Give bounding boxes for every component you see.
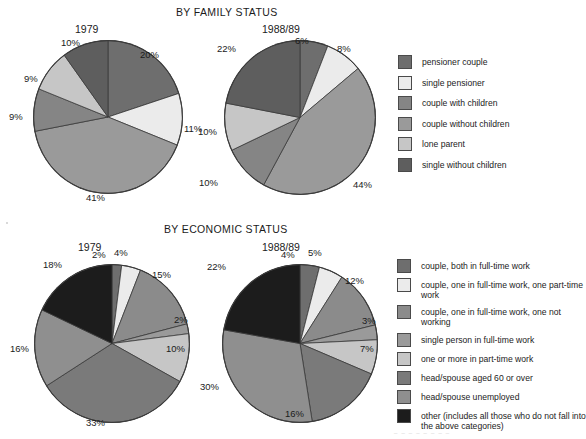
legend-label: lone parent [412, 137, 465, 149]
legend-label: head/spouse aged 60 or over [411, 371, 533, 383]
pct-economic-1988-5: 16% [285, 409, 304, 419]
legend-economic-status: couple, both in full-time workcouple, on… [397, 259, 586, 437]
legend-swatch-icon [398, 158, 412, 172]
pct-family-1988-1: 8% [337, 44, 351, 54]
pct-economic-1979-5: 33% [86, 418, 105, 428]
legend-swatch-icon [397, 352, 411, 366]
legend-swatch-icon [398, 96, 412, 110]
legend-label: single pensioner [412, 76, 485, 88]
legend-item[interactable]: one or more in part-time work [397, 352, 586, 366]
pct-economic-1988-6: 30% [200, 382, 219, 392]
pct-economic-1979-7: 18% [43, 260, 62, 270]
legend-swatch-icon [397, 371, 411, 385]
section-economic-status: BY ECONOMIC STATUS 1979 1988/89 2% 4% 15… [0, 216, 586, 439]
legend-family-status: pensioner couplesingle pensionercouple w… [398, 55, 509, 178]
legend-item[interactable]: single person in full-time work [397, 333, 586, 347]
legend-swatch-icon [398, 117, 412, 131]
page-speck [6, 222, 8, 224]
legend-item[interactable]: single pensioner [398, 76, 509, 90]
legend-swatch-icon [398, 76, 412, 90]
legend-label: single person in full-time work [411, 333, 534, 345]
legend-label: couple, both in full-time work [411, 259, 530, 271]
pct-family-1979-4: 9% [24, 74, 38, 84]
legend-swatch-icon [397, 409, 411, 423]
legend-label: couple without children [412, 117, 509, 129]
pct-economic-1979-2: 15% [152, 270, 171, 280]
pct-economic-1979-3: 2% [174, 315, 188, 325]
legend-label: one or more in part-time work [411, 352, 533, 364]
legend-item[interactable]: head/spouse aged 60 or over [397, 371, 586, 385]
legend-swatch-icon [397, 333, 411, 347]
legend-item[interactable]: couple without children [398, 117, 509, 131]
legend-item[interactable]: lone parent [398, 137, 509, 151]
legend-swatch-icon [397, 278, 411, 292]
legend-label: couple, one in full-time work, one part-… [411, 278, 586, 300]
year-label-family-1988: 1988/89 [262, 23, 300, 35]
pct-family-1979-5: 10% [61, 38, 80, 48]
pct-economic-1988-1: 5% [308, 248, 322, 258]
legend-label: couple, one in full-time work, one not w… [411, 305, 586, 327]
legend-swatch-icon [397, 390, 411, 404]
section-title-economic-status: BY ECONOMIC STATUS [164, 223, 288, 235]
pct-family-1988-2: 44% [353, 180, 372, 190]
legend-item[interactable]: couple with children [398, 96, 509, 110]
legend-item[interactable]: single without children [398, 158, 509, 172]
legend-swatch-icon [398, 137, 412, 151]
pct-economic-1988-3: 3% [362, 316, 376, 326]
pct-family-1979-0: 20% [140, 50, 159, 60]
section-title-family-status: BY FAMILY STATUS [176, 6, 278, 18]
legend-label: head/spouse unemployed [411, 390, 519, 402]
legend-item[interactable]: couple, both in full-time work [397, 259, 586, 273]
legend-swatch-icon [398, 55, 412, 69]
pct-family-1979-3: 9% [9, 112, 23, 122]
pct-economic-1979-1: 4% [114, 248, 128, 258]
legend-swatch-icon [397, 305, 411, 319]
legend-item[interactable]: couple, one in full-time work, one part-… [397, 278, 586, 300]
pie-slice[interactable] [224, 265, 300, 344]
pct-economic-1988-2: 12% [345, 276, 364, 286]
pie-chart-economic-1988[interactable] [222, 264, 378, 423]
pct-economic-1988-4: 7% [360, 344, 374, 354]
pct-economic-1979-0: 2% [92, 250, 106, 260]
pie-chart-family-1979[interactable] [33, 40, 183, 194]
section-family-status: BY FAMILY STATUS 1979 1988/89 20% 11% 41… [0, 0, 586, 216]
legend-label: pensioner couple [412, 55, 487, 67]
footer-note: _ _ _ _ _ _ _ _ [394, 428, 450, 434]
year-label-family-1979: 1979 [75, 23, 98, 35]
pct-economic-1979-4: 10% [166, 344, 185, 354]
pie-chart-family-1988[interactable] [224, 40, 376, 195]
pct-family-1988-4: 10% [198, 127, 217, 137]
pct-family-1979-2: 41% [86, 193, 105, 203]
legend-swatch-icon [397, 259, 411, 273]
legend-label: single without children [412, 158, 507, 170]
pct-family-1988-3: 10% [199, 178, 218, 188]
pct-economic-1988-0: 4% [281, 250, 295, 260]
pct-economic-1979-6: 16% [10, 344, 29, 354]
pct-economic-1988-7: 22% [207, 262, 226, 272]
legend-item[interactable]: couple, one in full-time work, one not w… [397, 305, 586, 327]
legend-label: couple with children [412, 96, 497, 108]
pct-family-1988-5: 22% [217, 44, 236, 54]
legend-item[interactable]: head/spouse unemployed [397, 390, 586, 404]
pct-family-1988-0: 6% [295, 36, 309, 46]
legend-item[interactable]: pensioner couple [398, 55, 509, 69]
